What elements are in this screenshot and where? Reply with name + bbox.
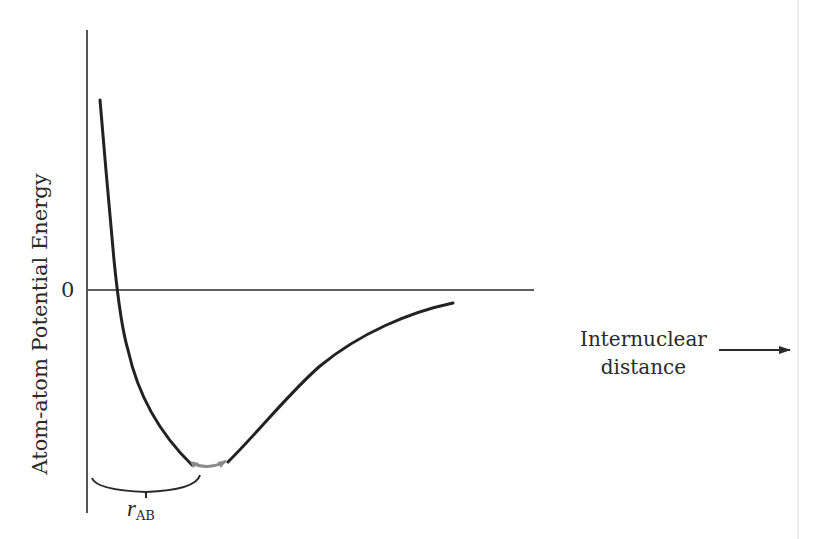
potential-curve-left	[100, 100, 192, 465]
rab-label: rAB	[127, 496, 155, 523]
vibration-arrow	[194, 461, 226, 466]
potential-curve-right	[228, 303, 453, 462]
chart-canvas	[0, 0, 814, 539]
y-axis-label: Atom-atom Potential Energy	[28, 173, 52, 474]
x-axis-label-line2: distance	[580, 353, 707, 381]
potential-energy-figure: Atom-atom Potential Energy 0 Internuclea…	[0, 0, 814, 539]
x-axis-label-line1: Internuclear	[580, 325, 707, 353]
y-zero-tick-label: 0	[61, 278, 74, 302]
rab-subscript: AB	[136, 508, 155, 523]
rab-main: r	[127, 496, 136, 521]
x-axis-label: Internuclear distance	[580, 325, 707, 381]
rab-bracket	[92, 475, 200, 492]
